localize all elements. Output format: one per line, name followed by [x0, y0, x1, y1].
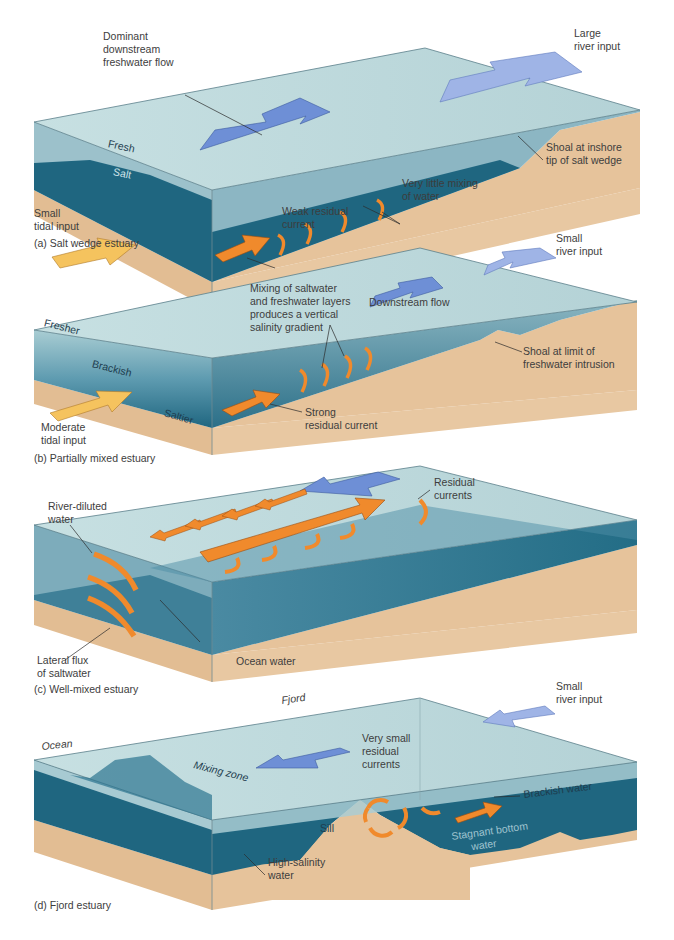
estuary-figure: Dominantdownstreamfreshwater flow Larger…	[0, 0, 674, 940]
label-river-input: Smallriver input	[556, 680, 602, 705]
caption-a: (a) Salt wedge estuary	[34, 237, 140, 249]
label-river-input: Largeriver input	[574, 27, 620, 52]
panel-well-mixed: River-dilutedwater Residualcurrents Late…	[34, 466, 637, 695]
label-shoal: Shoal at inshoretip of salt wedge	[546, 141, 622, 166]
label-fjord: Fjord	[281, 691, 308, 706]
label-river-input: Smallriver input	[556, 232, 602, 257]
label-downstream: Downstream flow	[369, 296, 450, 308]
label-ocean: Ocean	[41, 737, 73, 752]
caption-c: (c) Well-mixed estuary	[34, 683, 139, 695]
label-ocean-water: Ocean water	[236, 655, 296, 667]
caption-b: (b) Partially mixed estuary	[34, 452, 156, 464]
river-input-arrow	[483, 706, 555, 727]
label-tidal: Moderatetidal input	[41, 421, 86, 446]
label-residual: Residualcurrents	[434, 476, 475, 501]
label-sill: Sill	[320, 822, 334, 834]
panel-fjord: Fjord Ocean Smallriver input Very smallr…	[34, 680, 637, 911]
panel-partially-mixed: Mixing of saltwaterand freshwater layers…	[34, 232, 637, 464]
label-lateral: Lateral fluxof saltwater	[37, 654, 91, 679]
label-dominant-flow: Dominantdownstreamfreshwater flow	[103, 30, 174, 68]
caption-d: (d) Fjord estuary	[34, 899, 112, 911]
